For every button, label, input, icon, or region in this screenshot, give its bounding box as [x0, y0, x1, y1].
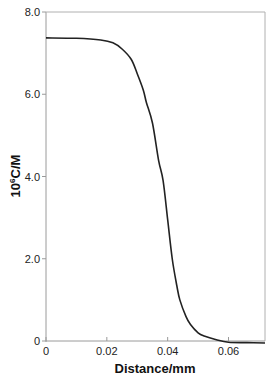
x-axis-title: Distance/mm — [115, 361, 196, 376]
plot-frame — [46, 12, 265, 342]
y-tick-label: 2.0 — [25, 253, 40, 265]
y-axis-title-base: 10 — [8, 183, 23, 197]
y-axis-ticks: 02.04.06.08.0 — [25, 6, 46, 347]
x-axis-ticks: 00.020.040.06 — [43, 337, 239, 357]
y-axis-title: 106C/M — [8, 155, 23, 198]
x-tick-label: 0.04 — [157, 345, 178, 357]
chart: 00.020.040.06 02.04.06.08.0 Distance/mm … — [0, 0, 273, 381]
x-tick-label: 0.06 — [218, 345, 239, 357]
y-tick-label: 8.0 — [25, 6, 40, 18]
x-tick-label: 0 — [43, 345, 49, 357]
y-axis-title-rest: C/M — [8, 155, 23, 179]
series-group — [46, 38, 265, 343]
y-tick-label: 4.0 — [25, 171, 40, 183]
y-tick-label: 6.0 — [25, 88, 40, 100]
y-tick-label: 0 — [34, 335, 40, 347]
x-tick-label: 0.02 — [96, 345, 117, 357]
series-line — [46, 38, 265, 343]
